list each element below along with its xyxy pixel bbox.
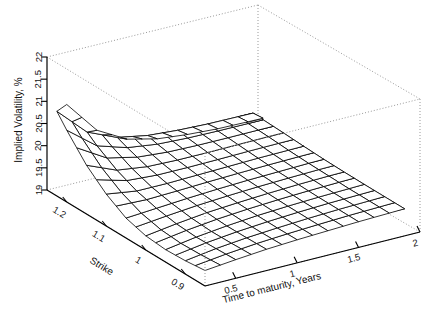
surface-plot-canvas: 1919.52020.52121.522 1.21.110.9 0.511.52… xyxy=(0,0,443,318)
surface-wireframe-mesh xyxy=(57,104,405,270)
z-axis-title: Implied Volatility, % xyxy=(13,77,24,163)
x-axis-tick-label: 1.2 xyxy=(51,204,68,220)
surface-plot-figure: 1919.52020.52121.522 1.21.110.9 0.511.52… xyxy=(0,0,443,318)
x-axis-tick-label: 0.9 xyxy=(170,276,187,292)
y-axis-tick-label: 2 xyxy=(411,237,419,249)
x-axis-tick-label: 1 xyxy=(133,254,143,266)
z-axis-implied-volatility: 1919.52020.52121.522 xyxy=(32,52,47,196)
x-axis-tick-label: 1.1 xyxy=(91,228,108,244)
y-axis-tick-label: 1.5 xyxy=(346,251,362,265)
z-axis-tick-label: 19 xyxy=(33,185,44,196)
z-axis-tick-label: 19.5 xyxy=(33,159,44,178)
z-axis-tick-label: 21.5 xyxy=(32,70,43,89)
z-axis-tick-label: 20.5 xyxy=(33,114,44,133)
x-axis-title: Strike xyxy=(88,255,116,278)
z-axis-tick-label: 22 xyxy=(33,52,44,63)
z-axis-tick-label: 20 xyxy=(32,140,43,151)
z-axis-tick-label: 21 xyxy=(33,96,44,107)
